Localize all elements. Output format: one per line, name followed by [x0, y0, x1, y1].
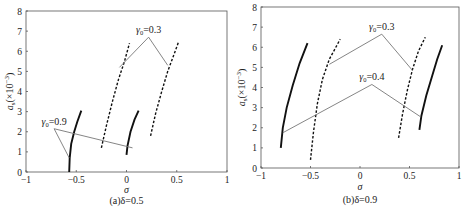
y-tick-label: 3 [17, 107, 22, 117]
chart-panel-b: −1−0.500.51012345678σ(b)δ=0.9as(×10−3)γ0… [235, 3, 462, 207]
y-tick-label: 0 [252, 164, 257, 174]
annotation-leader-line [372, 84, 421, 116]
curve-dashed-1 [101, 43, 129, 148]
annotation-leader-line [54, 129, 69, 158]
annotation-leader-line [149, 37, 168, 65]
x-tick-label: −1 [256, 171, 266, 181]
curve-solid-1 [69, 111, 81, 172]
curve-dashed-1 [311, 39, 341, 160]
y-tick-label: 6 [252, 43, 257, 53]
y-tick-label: 2 [17, 127, 22, 137]
x-tick-label: 0.5 [171, 175, 183, 185]
y-axis-label: as(×10−3) [3, 73, 17, 111]
annotation-leader-line [119, 37, 148, 67]
x-tick-label: 0.5 [404, 171, 416, 181]
x-tick-label: −1 [21, 175, 31, 185]
y-tick-label: 4 [17, 87, 22, 97]
curve-dashed-2 [151, 41, 179, 136]
chart-panel-a: −1−0.500.51012345678σ(a)δ=0.5as(×10−3)γ0… [3, 7, 230, 208]
y-tick-label: 8 [252, 3, 257, 13]
y-tick-label: 5 [17, 67, 22, 77]
x-axis-label: σ [358, 181, 364, 192]
annotation-leader-line [382, 34, 413, 70]
annotation-leader-line [54, 129, 132, 148]
y-tick-label: 7 [252, 23, 257, 33]
y-tick-label: 0 [17, 168, 22, 178]
annotation-label: γ0=0.4 [359, 71, 384, 83]
panel-caption: (b)δ=0.9 [343, 194, 378, 206]
x-tick-label: 0 [358, 171, 363, 181]
y-tick-label: 4 [252, 83, 257, 93]
curve-solid-2 [419, 45, 442, 130]
annotation-leader-line [329, 34, 381, 64]
panel-caption: (a)δ=0.5 [110, 195, 144, 207]
y-tick-label: 1 [252, 143, 257, 153]
y-tick-label: 7 [17, 27, 22, 37]
y-tick-label: 5 [252, 63, 257, 73]
x-tick-label: −0.5 [68, 175, 85, 185]
y-tick-label: 3 [252, 103, 257, 113]
x-tick-label: 1 [225, 175, 230, 185]
curve-solid-2 [127, 111, 139, 155]
annotation-label: γ0=0.9 [41, 116, 66, 128]
annotation-leader-line [283, 84, 372, 132]
figure-canvas: −1−0.500.51012345678σ(a)δ=0.5as(×10−3)γ0… [0, 0, 462, 208]
x-tick-label: 1 [457, 171, 462, 181]
annotation-label: γ0=0.3 [369, 21, 394, 33]
y-axis-label: as(×10−3) [235, 69, 249, 107]
x-axis-label: σ [124, 184, 130, 195]
annotation-label: γ0=0.3 [136, 24, 161, 36]
x-tick-label: −0.5 [302, 171, 319, 181]
y-tick-label: 2 [252, 123, 257, 133]
y-tick-label: 8 [17, 7, 22, 17]
y-tick-label: 6 [17, 47, 22, 57]
y-tick-label: 1 [17, 147, 22, 157]
